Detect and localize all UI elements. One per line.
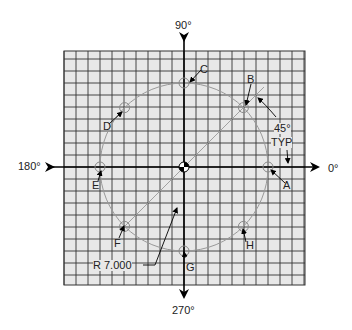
hole-label-g: G [186, 262, 195, 273]
hole-label-d: D [103, 121, 111, 132]
angle-note-45: 45° [274, 123, 291, 134]
axis-label-270: 270° [172, 305, 195, 316]
axis-label-0: 0° [328, 163, 339, 174]
hole-label-h: H [246, 240, 254, 251]
axis-label-90: 90° [175, 20, 192, 31]
bolt-circle-diagram: 90° 0° 180° 270° A B C D E F G H 45° TYP… [0, 0, 352, 330]
hole-label-c: C [200, 64, 208, 75]
hole-label-b: B [247, 74, 254, 85]
radius-note: R 7.000 [93, 260, 132, 271]
hole-label-a: A [283, 180, 290, 191]
hole-label-e: E [92, 180, 99, 191]
axis-label-180: 180° [18, 161, 41, 172]
diagram-canvas [0, 0, 352, 330]
hole-label-f: F [114, 238, 121, 249]
center-mark [179, 162, 189, 172]
angle-note-typ: TYP [271, 137, 292, 148]
